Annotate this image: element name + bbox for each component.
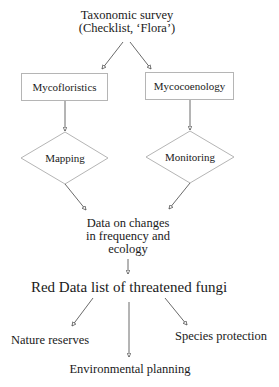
- nature-reserves-label: Nature reserves: [11, 333, 89, 347]
- edge-monitoring-to-data: [169, 183, 190, 209]
- data-changes-line2: in frequency and: [86, 229, 171, 243]
- monitoring-label: Monitoring: [165, 151, 216, 163]
- node-taxonomic-survey: Taxonomic survey (Checklist, ‘Flora’): [79, 8, 176, 35]
- node-mycocoenology: Mycocoenology: [146, 73, 234, 100]
- node-monitoring: Monitoring: [146, 131, 234, 183]
- node-mycofloristics: Mycofloristics: [22, 74, 108, 101]
- edge-survey-to-mycocoenology: [130, 42, 151, 69]
- data-changes-line3: ecology: [108, 242, 148, 256]
- taxonomic-survey-line2: (Checklist, ‘Flora’): [79, 21, 176, 35]
- edge-mapping-to-data: [65, 184, 86, 210]
- node-mapping: Mapping: [21, 132, 108, 184]
- environmental-planning-label: Environmental planning: [69, 362, 191, 376]
- mapping-label: Mapping: [45, 152, 85, 164]
- mycocoenology-label: Mycocoenology: [154, 80, 226, 92]
- flowchart-diagram: Taxonomic survey (Checklist, ‘Flora’) My…: [0, 0, 279, 387]
- species-protection-label: Species protection: [175, 329, 268, 343]
- mycofloristics-label: Mycofloristics: [32, 81, 96, 93]
- edge-survey-to-mycofloristics: [102, 42, 123, 69]
- edge-redlist-to-species-protection: [165, 298, 187, 325]
- data-changes-line1: Data on changes: [87, 216, 170, 230]
- node-data-changes: Data on changes in frequency and ecology: [86, 216, 171, 256]
- taxonomic-survey-line1: Taxonomic survey: [81, 8, 174, 22]
- edge-redlist-to-nature-reserves: [72, 298, 93, 326]
- red-data-list-title: Red Data list of threatened fungi: [31, 279, 227, 295]
